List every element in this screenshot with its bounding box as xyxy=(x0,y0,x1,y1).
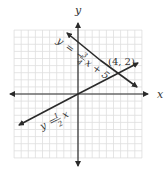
coordinate-graph: x y (4, 2) y = − 3 4 x + 5 y = 1 2 x xyxy=(0,0,168,175)
x-axis-label: x xyxy=(157,88,164,101)
equation-label-increasing: y = 1 2 x xyxy=(37,107,73,137)
svg-text:x: x xyxy=(60,108,70,121)
intersection-label: (4, 2) xyxy=(108,56,135,67)
equation-label-decreasing: y = − 3 4 x + 5 xyxy=(51,33,113,84)
y-axis-label: y xyxy=(74,4,82,17)
